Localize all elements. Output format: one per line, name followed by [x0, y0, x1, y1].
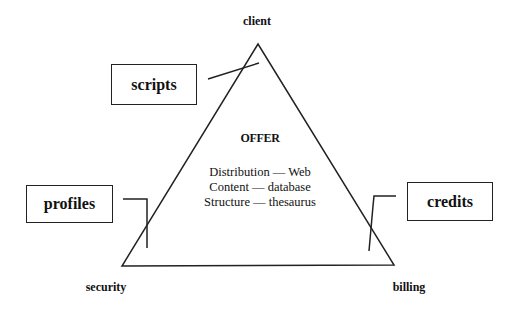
offer-line-structure: Structure — thesaurus: [204, 195, 316, 210]
scripts-connector: [208, 63, 259, 79]
offer-line-content: Content — database: [204, 180, 316, 195]
profiles-connector: [123, 199, 147, 248]
vertex-label-security: security: [86, 280, 127, 295]
offer-line-distribution: Distribution — Web: [204, 165, 316, 180]
box-credits: credits: [407, 182, 493, 221]
credits-connector: [369, 196, 396, 251]
vertex-label-client: client: [243, 14, 271, 29]
offer-lines: Distribution — Web Content — database St…: [204, 165, 316, 210]
box-profiles-label: profiles: [44, 195, 95, 213]
box-credits-label: credits: [427, 193, 473, 211]
box-profiles: profiles: [26, 185, 113, 223]
offer-center-block: OFFER Distribution — Web Content — datab…: [204, 131, 316, 210]
vertex-label-billing: billing: [393, 280, 426, 295]
box-scripts: scripts: [111, 64, 197, 105]
box-scripts-label: scripts: [131, 76, 176, 94]
offer-title: OFFER: [204, 131, 316, 146]
